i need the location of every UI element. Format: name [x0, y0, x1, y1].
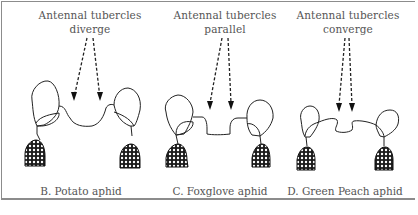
arrow-right-c [228, 38, 231, 103]
arrow-right-d [349, 38, 352, 105]
annotation-c-line2: parallel [204, 23, 245, 35]
caption-potato-aphid: B. Potato aphid [40, 185, 122, 197]
arrow-left-b [74, 38, 87, 98]
annotation-b-line2: diverge [70, 23, 111, 35]
panel-b-drawing [25, 38, 140, 168]
arrow-left-d [339, 38, 345, 105]
caption-green-peach-aphid: D. Green Peach aphid [287, 185, 403, 197]
arrow-left-c [210, 38, 222, 103]
annotation-b-line1: Antennal tubercles [39, 9, 142, 21]
caption-foxglove-aphid: C. Foxglove aphid [173, 185, 268, 197]
panel-d-drawing [297, 38, 399, 170]
arrow-right-b [93, 38, 100, 98]
annotation-c-line1: Antennal tubercles [174, 9, 277, 21]
annotation-d-line1: Antennal tubercles [297, 9, 400, 21]
panel-c-drawing [165, 38, 273, 167]
annotation-d-line2: converge [323, 23, 373, 35]
